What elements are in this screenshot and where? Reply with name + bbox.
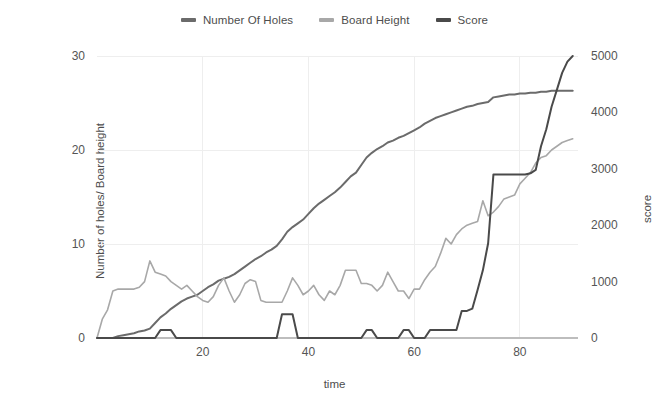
x-tick-label: 40: [302, 345, 316, 359]
y-right-tick-label: 3000: [591, 162, 618, 176]
y-right-tick-label: 4000: [591, 105, 618, 119]
y-right-tick-label: 1000: [591, 275, 618, 289]
plot-area: 010203001000200030004000500020406080: [0, 0, 669, 402]
y-right-tick-label: 2000: [591, 218, 618, 232]
y-left-tick-label: 20: [72, 143, 86, 157]
y-left-tick-label: 10: [72, 237, 86, 251]
y-left-tick-label: 0: [78, 331, 85, 345]
chart-container: Number Of Holes Board Height Score Numbe…: [0, 0, 669, 402]
data-series: [97, 56, 573, 338]
x-tick-label: 20: [196, 345, 210, 359]
tick-labels: 010203001000200030004000500020406080: [72, 49, 618, 359]
series-line-board-height: [97, 139, 573, 338]
y-right-tick-label: 0: [591, 331, 598, 345]
x-tick-label: 80: [513, 345, 527, 359]
series-line-number-of-holes: [97, 91, 573, 338]
x-tick-label: 60: [407, 345, 421, 359]
y-right-tick-label: 5000: [591, 49, 618, 63]
y-left-tick-label: 30: [72, 49, 86, 63]
series-line-score: [97, 56, 573, 338]
gridlines: [97, 56, 578, 338]
